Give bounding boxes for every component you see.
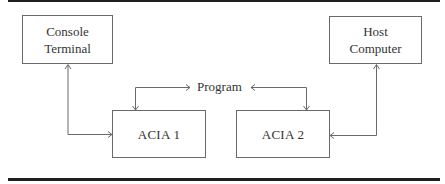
- host-computer-label-line2: Computer: [350, 40, 402, 57]
- host-computer-label-line1: Host: [350, 23, 402, 40]
- bottom-rule: [8, 178, 440, 181]
- console-terminal-box: Console Terminal: [22, 15, 113, 64]
- host-computer-box: Host Computer: [329, 16, 422, 64]
- acia1-box: ACIA 1: [112, 110, 206, 158]
- connector-program-acia2: [251, 88, 307, 111]
- connector-host-acia2: [330, 65, 377, 136]
- acia2-label: ACIA 2: [262, 126, 305, 143]
- console-terminal-label-line1: Console: [44, 23, 91, 40]
- connector-program-acia1: [136, 88, 191, 111]
- program-label: Program: [197, 79, 242, 95]
- console-terminal-label-line2: Terminal: [44, 40, 91, 57]
- acia1-label: ACIA 1: [138, 126, 181, 143]
- connector-console-acia1: [68, 65, 112, 135]
- acia2-box: ACIA 2: [236, 110, 330, 158]
